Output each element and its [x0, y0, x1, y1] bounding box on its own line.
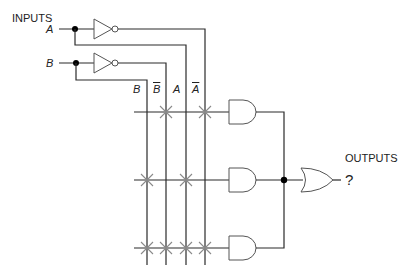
pla-diagram	[0, 0, 404, 280]
wire-a-bar	[118, 29, 205, 265]
inverter-b	[94, 53, 112, 73]
input-a-label: A	[46, 24, 53, 35]
input-b-label: B	[46, 58, 53, 69]
and-gate-1	[229, 100, 256, 124]
wire-a	[75, 29, 186, 265]
inverter-bubble-b	[112, 60, 118, 66]
column-label-b-bar: B	[153, 84, 160, 95]
column-label-b: B	[133, 84, 140, 95]
outputs-label: OUTPUTS	[345, 153, 398, 164]
inverter-bubble-a	[112, 26, 118, 32]
junction-dot-or	[281, 177, 287, 183]
inverter-a	[94, 19, 112, 39]
and-gate-2	[229, 168, 256, 192]
and-gate-3	[229, 236, 256, 260]
column-label-a-bar: A	[192, 84, 199, 95]
column-label-a: A	[173, 84, 180, 95]
output-value: ?	[345, 172, 353, 187]
or-gate	[301, 168, 333, 192]
